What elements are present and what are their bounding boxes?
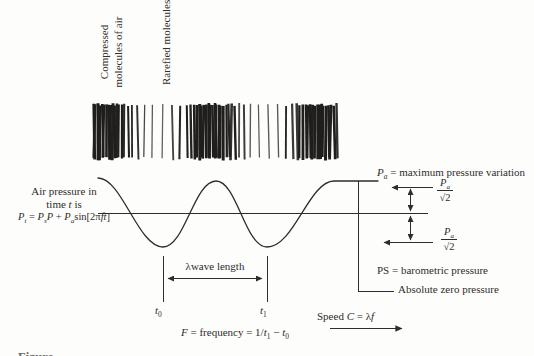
wavelength-label: λwave length bbox=[160, 260, 270, 273]
absolute-zero-label: Absolute zero pressure bbox=[398, 283, 499, 296]
rms-bottom-denominator: √2 bbox=[434, 241, 464, 253]
pressure-wave-path bbox=[98, 178, 378, 247]
compressed-label-line2: molecules of air bbox=[111, 6, 125, 98]
sound-wave-figure: Compressed molecules of air Rarefied mol… bbox=[0, 0, 534, 356]
pressure-formula: Pt = PsP + Pasin[2πft] bbox=[5, 211, 123, 224]
rms-bottom-fraction: Pa √2 bbox=[434, 226, 464, 253]
rms-top-fraction: Pa √2 bbox=[430, 177, 460, 204]
rms-bottom-numerator: Pa bbox=[441, 226, 457, 240]
t1-label: t1 bbox=[260, 304, 267, 317]
rms-top-denominator: √2 bbox=[430, 192, 460, 204]
rarefied-molecules-label: Rarefied molecules bbox=[159, 11, 173, 85]
compressed-molecules-label: Compressed molecules of air bbox=[97, 6, 125, 98]
compressed-label-line1: Compressed bbox=[97, 6, 111, 98]
speed-formula-label: Speed C = λf bbox=[317, 310, 374, 323]
figure-caption-clipped: Figure bbox=[18, 350, 53, 356]
t0-label: t0 bbox=[155, 304, 162, 317]
compression-stripes-band bbox=[94, 103, 338, 161]
air-pressure-label: Air pressure in time t is Pt = PsP + Pas… bbox=[5, 185, 123, 224]
air-pressure-line1: Air pressure in bbox=[5, 185, 123, 198]
frequency-formula-label: F = frequency = 1/t1 − t0 bbox=[140, 326, 330, 339]
barometric-pressure-label: PS = barometric pressure bbox=[377, 264, 488, 277]
air-pressure-line2: time t is bbox=[5, 198, 123, 211]
rms-top-numerator: Pa bbox=[437, 177, 453, 191]
